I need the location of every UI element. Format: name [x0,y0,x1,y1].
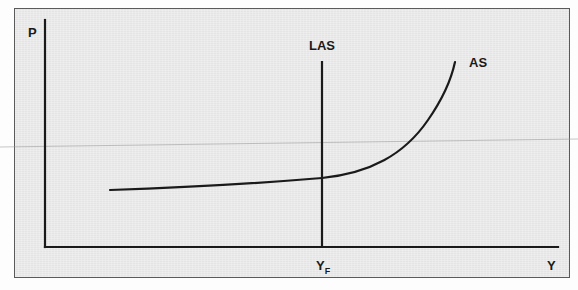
as-curve-path [110,62,455,190]
yf-subscript: F [325,266,331,276]
as-curve-label: AS [469,55,487,70]
aggregate-supply-plot: P Y LAS AS YF [0,0,578,290]
las-curve-label: LAS [309,38,335,53]
figure-root: P Y LAS AS YF [0,0,578,290]
scan-line-artifact [0,139,578,147]
full-employment-output-label: YF [316,258,331,276]
p-axis-label: P [28,25,37,40]
yf-base-letter: Y [316,258,325,273]
y-axis-label: Y [547,258,556,273]
